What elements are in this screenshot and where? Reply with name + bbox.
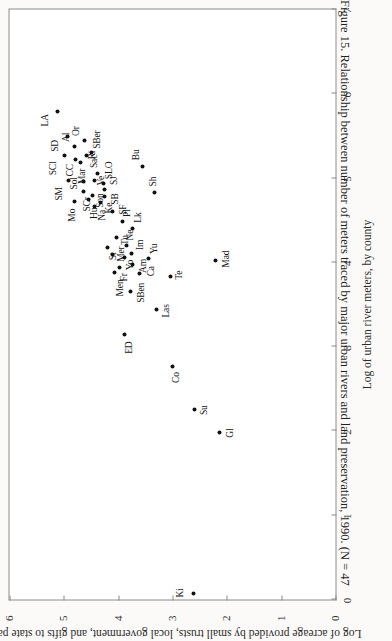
data-point (213, 258, 217, 262)
data-point (168, 274, 172, 278)
data-point (124, 243, 128, 247)
data-point (117, 265, 121, 269)
data-point (105, 245, 109, 249)
data-point (86, 198, 90, 202)
y-tick-label: 5 (56, 615, 68, 621)
data-point (95, 171, 99, 175)
data-point (102, 187, 106, 191)
data-point-label: Men (114, 279, 124, 296)
data-point-label: Mo (66, 208, 76, 221)
data-point (101, 181, 105, 185)
data-point (137, 271, 141, 275)
y-axis-title: Log of acreage provided by small trusts,… (0, 627, 361, 639)
data-point (191, 591, 195, 595)
data-point (72, 144, 76, 148)
data-point-label: Yu (148, 243, 158, 253)
data-point (110, 209, 114, 213)
data-point-label: Sol (68, 177, 78, 189)
data-point-label: SD (49, 139, 59, 151)
y-tick-label: 6 (2, 615, 14, 621)
y-tick-mark (63, 595, 64, 600)
data-point (146, 257, 150, 261)
data-point (130, 262, 134, 266)
figure-caption: Figure 15. Relationship between number o… (330, 0, 360, 641)
data-point-label: ED (123, 341, 133, 353)
data-point (81, 189, 85, 193)
data-point (72, 199, 76, 203)
data-point-label: Lk (132, 212, 142, 222)
data-point (128, 289, 132, 293)
data-point (120, 219, 124, 223)
data-point (122, 255, 126, 259)
y-tick-mark (118, 595, 119, 600)
y-tick-label: 4 (111, 615, 123, 621)
data-point (92, 204, 96, 208)
data-point (55, 109, 59, 113)
data-point-label: Or (70, 126, 80, 136)
y-tick-mark (226, 595, 227, 600)
plot-frame: LASDSClAlOrCCMarRiSBerSMMoSCrHuSolSacVeS… (8, 8, 336, 600)
data-point (140, 164, 144, 168)
data-point (90, 193, 94, 197)
data-point (78, 160, 82, 164)
data-point (102, 194, 106, 198)
data-point-label: Im (134, 239, 144, 249)
data-point-label: Ki (174, 588, 184, 597)
data-point (154, 307, 158, 311)
data-point-label: CC (64, 164, 74, 176)
y-tick-label: 1 (274, 615, 286, 621)
y-tick-mark (281, 595, 282, 600)
data-point (217, 430, 221, 434)
data-point-label: Sac (88, 154, 98, 167)
data-point-label: Pl (121, 209, 131, 217)
data-point (122, 332, 126, 336)
x-axis-title: Log of urban river meters, by county (360, 219, 372, 389)
data-point (98, 200, 102, 204)
y-tick-mark (172, 595, 173, 600)
data-point (129, 251, 133, 255)
data-point-label: Gl (224, 428, 234, 437)
data-point (192, 407, 196, 411)
data-point-label: Ne (124, 229, 134, 240)
data-point (62, 153, 66, 157)
data-point (89, 150, 93, 154)
data-point-label: Bu (130, 149, 140, 160)
data-point-label: Te (173, 270, 183, 279)
data-point (81, 179, 85, 183)
data-point-label: Las (160, 304, 170, 317)
y-tick-mark (9, 595, 10, 600)
data-point (110, 252, 114, 256)
data-point-label: Al (60, 132, 70, 141)
data-point (82, 139, 86, 143)
data-point (114, 235, 118, 239)
data-point-label: SCl (47, 161, 57, 175)
y-tick-label: 2 (219, 615, 231, 621)
data-point (170, 364, 174, 368)
data-point-label: SJ (108, 176, 118, 185)
data-point-label: SBer (91, 130, 101, 148)
data-point-label: Co (170, 372, 180, 383)
data-point-label: Sh (147, 176, 157, 186)
data-point-label: SM (53, 187, 63, 200)
data-point (112, 270, 116, 274)
page-background: LASDSClAlOrCCMarRiSBerSMMoSCrHuSolSacVeS… (0, 0, 392, 641)
data-point (152, 190, 156, 194)
data-point-label: SBen (135, 282, 145, 302)
data-point-label: LA (39, 114, 49, 126)
data-point-label: Mad (220, 250, 230, 267)
y-tick-label: 3 (165, 615, 177, 621)
data-point-label: Su (198, 405, 208, 415)
data-point-label: Ca (145, 266, 155, 276)
data-point (73, 157, 77, 161)
